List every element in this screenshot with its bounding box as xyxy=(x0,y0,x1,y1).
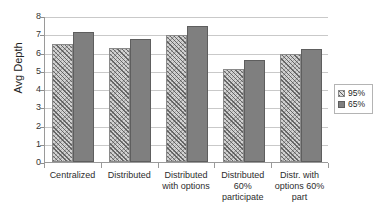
category-separator xyxy=(44,163,45,168)
y-tick-label: 0 xyxy=(15,158,41,167)
plot-area xyxy=(44,17,328,163)
category-separator xyxy=(328,163,329,168)
x-axis-label-line: Distributed xyxy=(210,170,275,181)
legend-label-65: 65% xyxy=(348,100,365,109)
bar-65pct-0[interactable] xyxy=(73,32,94,162)
legend-swatch-65-icon xyxy=(338,101,345,108)
x-axis-label-1: Distributed xyxy=(97,170,162,181)
chart-title-clipped xyxy=(95,0,285,8)
category-separator xyxy=(101,163,102,168)
x-axis-label-4: Distr. withoptions 60%part xyxy=(267,170,332,203)
x-axis-label-line: part xyxy=(267,192,332,203)
bar-95pct-1[interactable] xyxy=(109,48,130,162)
legend-swatch-95-icon xyxy=(338,90,345,97)
y-tick-label: 4 xyxy=(15,85,41,94)
y-tick-label: 3 xyxy=(15,103,41,112)
y-tick-label: 6 xyxy=(15,49,41,58)
x-axis-label-line: with options xyxy=(154,181,219,192)
y-tick-label: 1 xyxy=(15,140,41,149)
bar-95pct-2[interactable] xyxy=(166,35,187,162)
y-tick-label: 7 xyxy=(15,30,41,39)
category-separator xyxy=(214,163,215,168)
x-axis-label-3: Distributed60%participate xyxy=(210,170,275,203)
legend: 95% 65% xyxy=(334,84,373,114)
x-axis-label-line: Distributed xyxy=(154,170,219,181)
x-axis-label-2: Distributedwith options xyxy=(154,170,219,192)
x-axis-label-line: Distr. with xyxy=(267,170,332,181)
legend-item-65[interactable]: 65% xyxy=(338,99,369,110)
bar-chart: Avg Depth 876543210 CentralizedDistribut… xyxy=(0,0,376,218)
y-tick-label: 2 xyxy=(15,122,41,131)
y-tick-label: 5 xyxy=(15,67,41,76)
bar-65pct-2[interactable] xyxy=(187,26,208,162)
bar-95pct-4[interactable] xyxy=(280,54,301,162)
legend-item-95[interactable]: 95% xyxy=(338,88,369,99)
bar-65pct-3[interactable] xyxy=(244,60,265,162)
x-axis-label-line: Centralized xyxy=(40,170,105,181)
x-axis-label-line: 60% xyxy=(210,181,275,192)
bar-65pct-1[interactable] xyxy=(130,39,151,162)
x-axis-label-line: options 60% xyxy=(267,181,332,192)
legend-label-95: 95% xyxy=(348,89,365,98)
x-axis-label-0: Centralized xyxy=(40,170,105,181)
bar-65pct-4[interactable] xyxy=(301,49,322,162)
y-tick-label: 8 xyxy=(15,12,41,21)
category-separator xyxy=(158,163,159,168)
category-separator xyxy=(271,163,272,168)
x-axis-label-line: participate xyxy=(210,192,275,203)
bar-95pct-3[interactable] xyxy=(223,69,244,162)
gridline xyxy=(45,17,328,18)
bar-95pct-0[interactable] xyxy=(52,44,73,162)
x-axis-label-line: Distributed xyxy=(97,170,162,181)
